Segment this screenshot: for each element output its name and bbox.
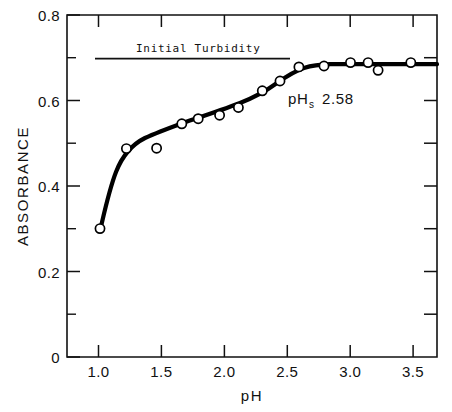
phs-label: pH	[288, 90, 308, 107]
data-point	[177, 119, 186, 128]
data-point	[122, 144, 131, 153]
x-tick-label: 2.0	[213, 363, 235, 380]
data-point	[346, 58, 355, 67]
x-tick-label: 2.5	[276, 363, 298, 380]
y-tick-label: 0.8	[38, 7, 60, 24]
data-point	[95, 224, 104, 233]
data-point	[294, 62, 303, 71]
data-point	[374, 66, 383, 75]
y-tick-label: 0.2	[38, 264, 60, 281]
data-point	[152, 144, 161, 153]
absorbance-vs-ph-chart: Initial Turbidity pH s 2.58	[0, 0, 452, 412]
initial-turbidity-label: Initial Turbidity	[136, 42, 260, 55]
data-point	[319, 61, 328, 70]
x-tick-label: 3.5	[402, 363, 424, 380]
y-tick-label: 0.4	[38, 178, 60, 195]
phs-subscript: s	[309, 99, 314, 110]
y-tick-label: 0.6	[38, 93, 60, 110]
x-tick-label: 3.0	[339, 363, 361, 380]
data-point	[234, 103, 243, 112]
data-point	[258, 86, 267, 95]
phs-value: 2.58	[322, 90, 354, 107]
x-tick-label: 1.5	[150, 363, 172, 380]
data-point	[364, 58, 373, 67]
data-point	[275, 76, 284, 85]
data-point	[406, 58, 415, 67]
data-point	[215, 111, 224, 120]
x-tick-label: 1.0	[87, 363, 109, 380]
chart-canvas: Initial Turbidity pH s 2.58	[0, 0, 452, 412]
data-point	[194, 114, 203, 123]
y-tick-label: 0	[51, 349, 60, 366]
y-axis-title: ABSORBANCE	[14, 126, 31, 246]
x-axis-title: pH	[241, 387, 263, 404]
